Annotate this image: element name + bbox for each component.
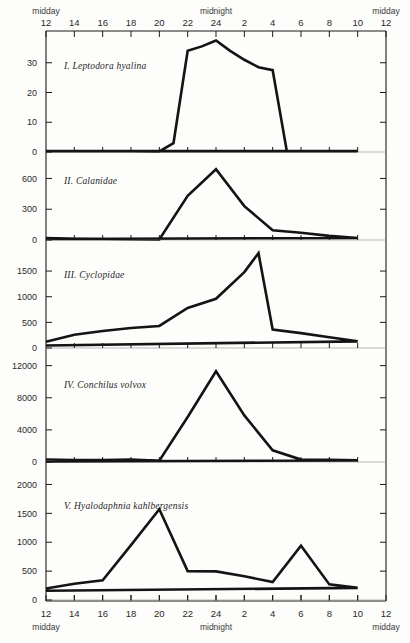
bottom-axis-hour-label: 8 bbox=[327, 608, 332, 619]
panel-title-iii: III. Cyclopidae bbox=[63, 270, 125, 280]
bottom-axis-midday-left: midday bbox=[32, 622, 60, 632]
chart-canvas: middaymidnightmidday12141618202224246810… bbox=[0, 0, 410, 643]
y-axis-tick-label: 0 bbox=[32, 457, 37, 467]
y-axis-tick-label: 12000 bbox=[12, 361, 37, 371]
y-axis-tick-label: 0 bbox=[32, 147, 37, 157]
series-line-iii bbox=[46, 253, 358, 345]
top-axis-hour-label: 12 bbox=[381, 17, 392, 28]
top-axis-hour-label: 14 bbox=[69, 17, 80, 28]
panel-ii: 0300600II. Calanidae bbox=[22, 169, 386, 245]
panel-i: 0102030I. Leptodora hyalina bbox=[27, 40, 386, 157]
bottom-axis-hour-label: 10 bbox=[352, 608, 363, 619]
top-axis-midday-left: midday bbox=[32, 6, 60, 16]
y-axis-tick-label: 0 bbox=[32, 595, 37, 605]
y-axis-tick-label: 8000 bbox=[17, 393, 37, 403]
bottom-axis-hour-label: 20 bbox=[154, 608, 165, 619]
y-axis-tick-label: 2000 bbox=[17, 480, 37, 490]
top-axis-hour-label: 20 bbox=[154, 17, 165, 28]
top-axis-hour-label: 8 bbox=[327, 17, 332, 28]
top-axis-hour-label: 6 bbox=[298, 17, 303, 28]
y-axis-tick-label: 600 bbox=[22, 174, 37, 184]
y-axis-tick-label: 1500 bbox=[17, 509, 37, 519]
bottom-axis-hour-label: 14 bbox=[69, 608, 80, 619]
bottom-axis-hour-label: 4 bbox=[270, 608, 275, 619]
top-axis-hour-label: 4 bbox=[270, 17, 275, 28]
panel-title-v: V. Hyalodaphnia kahlbergensis bbox=[64, 501, 188, 511]
bottom-axis-hour-label: 16 bbox=[97, 608, 108, 619]
top-axis-hour-label: 18 bbox=[126, 17, 137, 28]
bottom-axis-hour-label: 6 bbox=[298, 608, 303, 619]
y-axis-tick-label: 0 bbox=[32, 235, 37, 245]
y-axis-tick-label: 300 bbox=[22, 204, 37, 214]
top-axis-hour-label: 12 bbox=[41, 17, 52, 28]
bottom-axis-hour-label: 12 bbox=[381, 608, 392, 619]
bottom-axis-midday-right: midday bbox=[372, 622, 400, 632]
bottom-axis-hour-label: 2 bbox=[242, 608, 247, 619]
y-axis-tick-label: 1500 bbox=[17, 266, 37, 276]
panel-v: 0500100015002000V. Hyalodaphnia kahlberg… bbox=[17, 480, 386, 606]
bottom-axis-hour-label: 24 bbox=[211, 608, 222, 619]
top-axis-hour-label: 10 bbox=[352, 17, 363, 28]
y-axis-tick-label: 10 bbox=[27, 117, 37, 127]
y-axis-tick-label: 20 bbox=[27, 88, 37, 98]
panel-title-iv: IV. Conchilus volvox bbox=[63, 380, 147, 390]
y-axis-tick-label: 500 bbox=[22, 566, 37, 576]
y-axis-tick-label: 30 bbox=[27, 58, 37, 68]
plankton-diel-migration-figure: middaymidnightmidday12141618202224246810… bbox=[0, 0, 410, 643]
top-axis-hour-label: 16 bbox=[97, 17, 108, 28]
panel-title-ii: II. Calanidae bbox=[63, 176, 117, 186]
top-axis-midday-right: midday bbox=[372, 6, 400, 16]
series-line-i bbox=[46, 40, 358, 151]
series-line-v bbox=[46, 509, 358, 590]
top-axis-hour-label: 24 bbox=[211, 17, 222, 28]
top-axis-hour-label: 22 bbox=[182, 17, 193, 28]
top-axis-hour-label: 2 bbox=[242, 17, 247, 28]
bottom-axis-hour-label: 18 bbox=[126, 608, 137, 619]
bottom-axis-hour-label: 22 bbox=[182, 608, 193, 619]
y-axis-tick-label: 1000 bbox=[17, 292, 37, 302]
y-axis-tick-label: 4000 bbox=[17, 425, 37, 435]
y-axis-tick-label: 0 bbox=[32, 343, 37, 353]
panel-iii: 050010001500III. Cyclopidae bbox=[17, 253, 386, 353]
panel-iv: 04000800012000IV. Conchilus volvox bbox=[12, 361, 386, 467]
panel-title-i: I. Leptodora hyalina bbox=[63, 61, 146, 71]
top-axis-midnight: midnight bbox=[200, 6, 233, 16]
bottom-axis-hour-label: 12 bbox=[41, 608, 52, 619]
y-axis-tick-label: 500 bbox=[22, 318, 37, 328]
y-axis-tick-label: 1000 bbox=[17, 537, 37, 547]
bottom-axis-midnight: midnight bbox=[200, 622, 233, 632]
